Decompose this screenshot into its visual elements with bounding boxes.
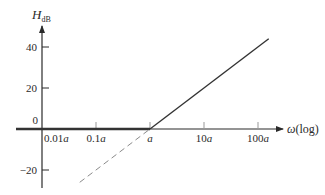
ticks [42, 47, 258, 170]
y-tick-label: 40 [26, 41, 38, 53]
labels: 40200−200.01a0.1aa10a100aω(log)HdB [20, 7, 319, 176]
x-tick-label: 100a [247, 132, 270, 144]
x-tick-label: a [147, 132, 153, 144]
y-tick-label: 20 [26, 82, 38, 94]
x-axis-title: ω(log) [287, 122, 319, 136]
series-asymptote-rising [150, 39, 269, 129]
y-tick-label: 0 [33, 114, 39, 126]
series-group [16, 39, 269, 183]
x-tick-label: 0.01a [44, 132, 69, 144]
x-tick-label: 0.1a [86, 132, 106, 144]
axes [16, 26, 283, 188]
y-axis-title: HdB [31, 7, 51, 24]
bode-magnitude-chart: 40200−200.01a0.1aa10a100aω(log)HdB [0, 0, 325, 195]
chart-canvas: 40200−200.01a0.1aa10a100aω(log)HdB [0, 0, 325, 195]
y-tick-label: −20 [20, 164, 38, 176]
x-tick-label: 10a [196, 132, 213, 144]
